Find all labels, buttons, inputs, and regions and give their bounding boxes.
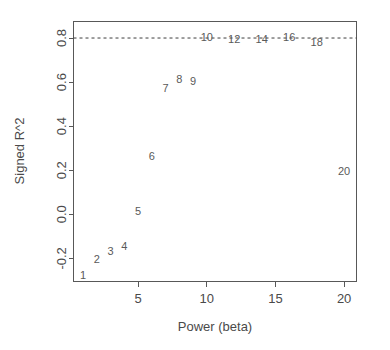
data-point-labels: 123456789101214161820 (80, 31, 350, 281)
y-tick-label: -0.2 (54, 247, 69, 269)
data-point-label: 10 (201, 31, 213, 43)
plot-canvas: -0.20.00.20.40.60.8 5101520 123456789101… (0, 0, 390, 350)
y-tick-label: 0.2 (54, 161, 69, 179)
x-tick-label: 5 (134, 291, 141, 306)
data-point-label: 4 (121, 240, 127, 252)
x-tick-label: 10 (200, 291, 214, 306)
data-point-label: 18 (311, 36, 323, 48)
scatter-plot-figure: -0.20.00.20.40.60.8 5101520 123456789101… (0, 0, 390, 350)
y-tick-label: 0.4 (54, 117, 69, 135)
y-axis-title: Signed R^2 (12, 118, 27, 185)
data-point-label: 9 (190, 75, 196, 87)
x-axis-title: Power (beta) (178, 319, 252, 334)
y-tick-label: 0.6 (54, 73, 69, 91)
y-tick-label: 0.8 (54, 29, 69, 47)
data-point-label: 2 (94, 253, 100, 265)
x-axis-tick-labels: 5101520 (134, 291, 351, 306)
y-tick-label: 0.0 (54, 205, 69, 223)
x-tick-label: 20 (337, 291, 351, 306)
data-point-label: 20 (338, 165, 350, 177)
x-axis-tick-marks (138, 282, 344, 287)
data-point-label: 3 (108, 245, 114, 257)
y-axis-tick-marks (69, 38, 74, 258)
data-point-label: 5 (135, 205, 141, 217)
data-point-label: 6 (149, 150, 155, 162)
data-point-label: 14 (256, 33, 268, 45)
plot-box-frame (74, 22, 357, 282)
data-point-label: 8 (176, 73, 182, 85)
data-point-label: 7 (162, 82, 168, 94)
data-point-label: 12 (228, 33, 240, 45)
x-tick-label: 15 (268, 291, 282, 306)
data-point-label: 1 (80, 269, 86, 281)
data-point-label: 16 (283, 31, 295, 43)
y-axis-tick-labels: -0.20.00.20.40.60.8 (54, 29, 69, 270)
